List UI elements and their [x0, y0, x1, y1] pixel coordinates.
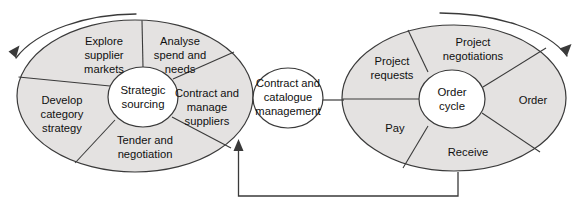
segment-label-line: markets — [84, 63, 124, 75]
segment-label-line: Project — [456, 36, 492, 48]
segment-label-line: suppliers — [185, 115, 230, 127]
segment-label-line: negotiations — [443, 50, 504, 62]
segment-label-line: strategy — [42, 122, 82, 134]
segment-label-line: Contract and — [175, 87, 239, 99]
segment-label-line: requests — [371, 69, 414, 81]
segment-label-line: negotiation — [118, 148, 173, 160]
segment-label-line: Order — [519, 94, 548, 106]
segment-label-line: Tender and — [117, 134, 173, 146]
left-hub-ellipse — [108, 67, 178, 127]
segment-label-line: supplier — [84, 49, 123, 61]
segment-receive: Receive — [448, 146, 488, 158]
segment-order: Order — [519, 94, 548, 106]
segment-label-line: Explore — [85, 35, 123, 47]
right-cycle-arrow-head — [560, 44, 572, 56]
right-hub-label-line2: cycle — [439, 100, 465, 112]
center-node-label-line: Contract and — [256, 77, 320, 89]
left-hub-label-line2: sourcing — [121, 98, 164, 110]
right-hub-ellipse — [419, 70, 485, 128]
feedback-loop-arrow-head — [234, 139, 244, 151]
segment-explore-supplier-markets: Explore supplier markets — [84, 35, 124, 75]
segment-label-line: category — [41, 108, 84, 120]
left-hub-label-line1: Strategic — [121, 84, 166, 96]
segment-label-line: Project — [375, 55, 411, 67]
segment-develop-category-strategy: Develop category strategy — [41, 94, 84, 134]
segment-label-line: needs — [165, 63, 196, 75]
center-node-label-line: catalogue — [264, 91, 313, 103]
right-wheel-group: Order cycle Project requests Project neg… — [342, 25, 566, 171]
segment-label-line: Analyse — [160, 35, 200, 47]
segment-pay: Pay — [385, 122, 405, 134]
center-node-label-line: management — [255, 105, 321, 117]
segment-label-line: manage — [187, 101, 227, 113]
segment-label-line: Pay — [385, 122, 405, 134]
segment-label-line: spend and — [154, 49, 206, 61]
segment-label-line: Receive — [448, 146, 488, 158]
segment-label-line: Develop — [41, 94, 82, 106]
procurement-cycle-diagram: Strategic sourcing Explore supplier mark… — [0, 0, 578, 208]
right-hub-label-line1: Order — [437, 86, 466, 98]
center-node-group: Contract and catalogue management — [253, 68, 344, 128]
left-wheel-group: Strategic sourcing Explore supplier mark… — [17, 20, 253, 172]
diagram-canvas: Strategic sourcing Explore supplier mark… — [0, 0, 578, 208]
